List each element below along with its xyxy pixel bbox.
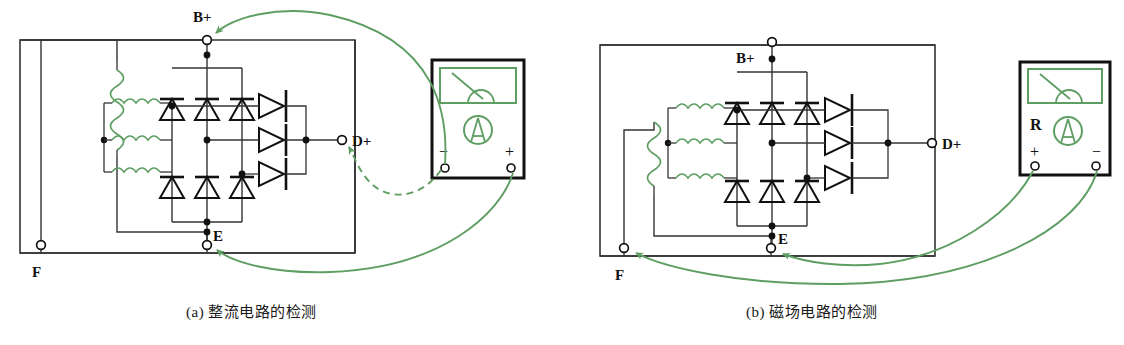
junction-dot: [885, 140, 892, 147]
diode-f1: [825, 94, 852, 126]
caption-panel-b: (b) 磁场电路的检测: [746, 300, 878, 321]
terminal-dplus-b[interactable]: [928, 139, 937, 148]
caption-panel-a: (a) 整流电路的检测: [186, 300, 317, 321]
meter-jack-plus-a[interactable]: [507, 164, 515, 172]
probe-lead-minus-to-f-b: [636, 171, 1097, 284]
label-bplus-a: B+: [193, 9, 212, 25]
diode-f3: [259, 158, 286, 190]
probe-lead-plus-to-e-b: [783, 171, 1033, 265]
meter-range-label-b: R: [1030, 116, 1042, 133]
fd-cathode-bus-b: [852, 110, 888, 178]
stator-windings-b: [665, 104, 737, 178]
panel-a: B+ D+ E F − +: [20, 9, 524, 280]
junction-dot: [734, 107, 741, 114]
diode-f2: [259, 124, 286, 156]
label-f-a: F: [32, 264, 41, 280]
junction-dot: [769, 233, 776, 240]
label-dplus-b: D+: [942, 136, 961, 152]
junction-dot: [769, 140, 776, 147]
junction-dot: [169, 103, 176, 110]
diode-f1: [259, 90, 286, 122]
meter-display-b: [1028, 69, 1102, 103]
label-e-b: E: [778, 231, 788, 247]
meter-minus-label-b: −: [1092, 143, 1101, 160]
label-dplus-a: D+: [352, 133, 371, 149]
label-e-a: E: [213, 228, 223, 244]
label-f-b: F: [615, 267, 624, 283]
probe-lead-minus-to-bplus-a: [216, 11, 445, 164]
alternator-case-a: [20, 40, 355, 253]
junction-dot: [769, 223, 776, 230]
meter-minus-label-a: −: [439, 143, 448, 160]
junction-dot: [303, 137, 310, 144]
junction-dot: [804, 175, 811, 182]
meter-jack-plus-b[interactable]: [1031, 162, 1039, 170]
field-wire-bottom-b: [654, 196, 771, 236]
field-diodes-a: [259, 90, 286, 190]
junction-dot: [204, 229, 211, 236]
junction-dot: [204, 52, 211, 59]
terminal-dplus-a[interactable]: [338, 136, 347, 145]
diode-f2: [825, 127, 852, 159]
meter-plus-label-b: +: [1030, 143, 1039, 160]
terminal-f-a[interactable]: [37, 241, 46, 250]
terminal-f-b[interactable]: [620, 244, 629, 253]
meter-display-a: [440, 68, 516, 103]
probe-lead-minus-to-dplus-a: [349, 147, 441, 195]
junction-dot: [239, 171, 246, 178]
stator-windings-a: [101, 99, 172, 172]
multimeter-b[interactable]: R + −: [1020, 62, 1110, 175]
label-bplus-b: B+: [736, 50, 755, 66]
diode-f3: [825, 162, 852, 194]
junction-dot: [204, 137, 211, 144]
junction-dot: [769, 56, 776, 63]
terminal-e-b[interactable]: [767, 244, 776, 253]
meter-jack-minus-b[interactable]: [1092, 162, 1100, 170]
field-diodes-b: [825, 94, 852, 194]
terminal-e-a[interactable]: [203, 241, 212, 250]
junction-dot: [204, 219, 211, 226]
field-winding-a: [111, 62, 124, 158]
circuit-diagram-svg: B+ D+ E F − +: [0, 0, 1124, 345]
terminal-bplus-a[interactable]: [203, 36, 212, 45]
probe-lead-plus-to-e-a: [217, 173, 513, 272]
terminal-bplus-b[interactable]: [768, 38, 777, 47]
meter-plus-label-a: +: [505, 143, 514, 160]
panel-b: B+ D+ E F R + −: [600, 38, 1110, 284]
meter-jack-minus-a[interactable]: [441, 164, 449, 172]
field-winding-b: [648, 122, 661, 196]
figure-root: B+ D+ E F − +: [0, 0, 1124, 345]
